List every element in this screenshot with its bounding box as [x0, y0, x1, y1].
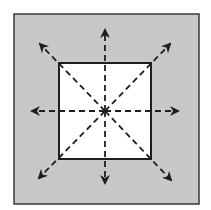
center-point — [103, 109, 107, 113]
expansion-diagram — [0, 0, 211, 210]
